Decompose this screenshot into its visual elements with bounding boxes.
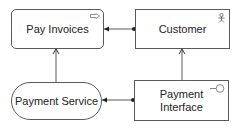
node-payment-service[interactable]: Payment Service bbox=[11, 82, 102, 120]
interface-icon bbox=[210, 84, 225, 93]
edge-payment-service-to-pay-invoices[interactable] bbox=[53, 49, 59, 82]
actor-icon bbox=[218, 13, 225, 23]
node-payment-interface[interactable]: Payment Interface bbox=[134, 80, 229, 121]
node-pay-invoices[interactable]: Pay Invoices bbox=[11, 9, 104, 49]
node-label: Pay Invoices bbox=[26, 23, 88, 36]
edge-customer-to-pay-invoices[interactable] bbox=[104, 27, 136, 32]
node-customer[interactable]: Customer bbox=[135, 9, 230, 49]
node-label: Payment Service bbox=[15, 95, 98, 108]
node-label-line2: Interface bbox=[160, 101, 203, 114]
business-process-icon bbox=[90, 13, 100, 19]
edge-payment-interface-to-payment-service[interactable] bbox=[102, 98, 135, 103]
node-label: Customer bbox=[159, 23, 207, 36]
edge-payment-interface-to-customer[interactable] bbox=[179, 49, 185, 80]
node-label-line1: Payment bbox=[160, 88, 203, 101]
